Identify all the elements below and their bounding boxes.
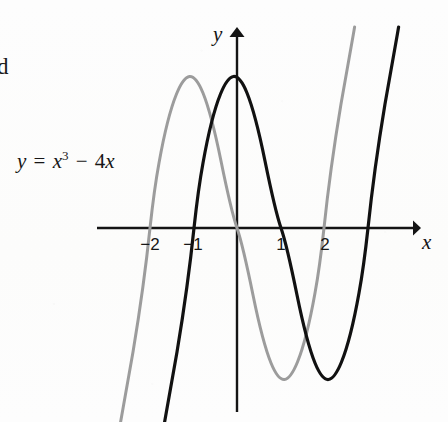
equation-equals: =: [32, 149, 48, 173]
x-tick-label-2: 2: [312, 236, 338, 253]
margin-letter-fragment: d: [0, 55, 9, 78]
y-axis-arrow-icon: [230, 27, 245, 37]
x-axis-label: x: [422, 232, 431, 253]
equation-coefficient: 4: [95, 149, 106, 173]
x-tick-label-minus-2: −2: [137, 236, 163, 253]
equation-variable: x: [105, 149, 114, 173]
x-tick-label-1: 1: [268, 236, 294, 253]
equation-minus: −: [74, 149, 90, 173]
x-tick-label-minus-1: −1: [180, 236, 206, 253]
equation-base: x: [53, 149, 62, 173]
equation-lhs: y: [17, 149, 26, 173]
equation-exponent: 3: [62, 148, 69, 163]
equation-annotation: y = x3 − 4x: [17, 150, 115, 173]
figure-canvas: d y x −2 −1 1 2 y = x3 − 4x: [0, 0, 448, 422]
cubic-graph-plot: [0, 0, 448, 422]
x-axis-arrow-icon: [413, 221, 421, 236]
y-axis-label: y: [213, 24, 222, 45]
